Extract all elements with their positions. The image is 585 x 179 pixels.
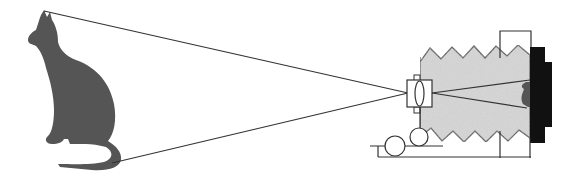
film-back [530, 47, 545, 143]
roller-small-icon [410, 128, 428, 146]
cat-silhouette [28, 10, 121, 170]
roller-large-icon [385, 136, 405, 156]
camera-diagram [0, 0, 585, 179]
film-holder [544, 62, 552, 127]
cat-body-icon [28, 10, 121, 170]
film-image-icon [522, 82, 531, 107]
bottom-ray [112, 93, 408, 163]
lens-icon [415, 81, 424, 106]
diagram-canvas [0, 0, 585, 179]
